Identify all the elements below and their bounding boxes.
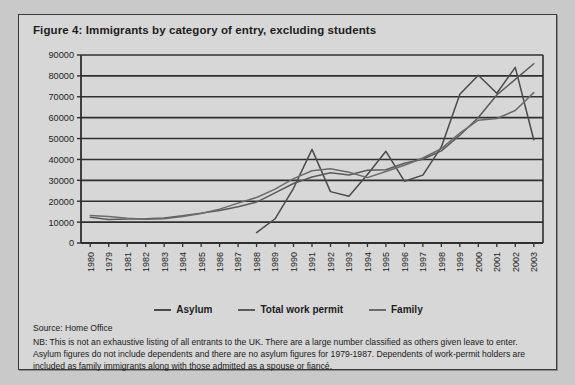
y-axis-tick-label: 90000: [48, 50, 74, 60]
x-axis-tick-label: 1982: [141, 252, 151, 272]
x-axis-tick-label: 1991: [307, 252, 317, 272]
x-axis-tick-label: 1981: [123, 252, 133, 272]
x-axis-tick-label: 1990: [289, 252, 299, 272]
x-axis-tick-label: 1983: [160, 252, 170, 272]
y-axis-tick-label: 60000: [48, 113, 74, 123]
legend-label-family: Family: [391, 304, 423, 315]
x-axis-tick-label: 2003: [529, 252, 539, 272]
x-axis-tick-label: 1998: [437, 252, 447, 272]
x-axis-tick-label: 2001: [492, 252, 502, 272]
x-axis-tick-label: 2002: [511, 252, 521, 272]
line-chart: 0100002000030000400005000060000700008000…: [19, 15, 558, 371]
x-axis-tick-label: 1987: [233, 252, 243, 272]
y-axis-tick-label: 0: [69, 238, 74, 248]
x-axis-tick-label: 1984: [178, 252, 188, 272]
x-axis-tick-label: 1994: [363, 252, 373, 272]
x-axis-tick-label: 1997: [418, 252, 428, 272]
legend-label-asylum: Asylum: [176, 304, 212, 315]
y-axis-tick-label: 50000: [48, 134, 74, 144]
legend-item-family: Family: [369, 304, 423, 315]
x-axis-tick-label: 1992: [326, 252, 336, 272]
x-axis-tick-label: 1989: [270, 252, 280, 272]
x-axis-tick-label: 1980: [86, 252, 96, 272]
legend-item-asylum: Asylum: [154, 304, 212, 315]
figure-panel: Figure 4: Immigrants by category of entr…: [18, 14, 557, 370]
y-axis-tick-label: 10000: [48, 218, 74, 228]
y-axis-tick-label: 40000: [48, 155, 74, 165]
y-axis-tick-label: 20000: [48, 197, 74, 207]
x-axis-tick-label: 1985: [197, 252, 207, 272]
x-axis-tick-label: 1996: [400, 252, 410, 272]
legend-item-total-work-permit: Total work permit: [238, 304, 343, 315]
x-axis-tick-label: 1995: [381, 252, 391, 272]
x-axis-tick-label: 1999: [455, 252, 465, 272]
source-line: Source: Home Office: [33, 323, 113, 333]
nb-footnote: NB: This is not an exhaustive listing of…: [33, 337, 545, 373]
y-axis-tick-label: 70000: [48, 92, 74, 102]
legend-label-total-work-permit: Total work permit: [260, 304, 343, 315]
x-axis-tick-label: 1993: [344, 252, 354, 272]
x-axis-tick-label: 1979: [104, 252, 114, 272]
y-axis-tick-label: 30000: [48, 176, 74, 186]
chart-plot-area: 0100002000030000400005000060000700008000…: [19, 15, 558, 371]
legend-swatch-family: [369, 309, 386, 311]
x-axis-tick-label: 1986: [215, 252, 225, 272]
x-axis-tick-label: 1988: [252, 252, 262, 272]
chart-legend: Asylum Total work permit Family: [19, 304, 558, 315]
y-axis-tick-label: 80000: [48, 71, 74, 81]
series-line: [257, 67, 534, 232]
legend-swatch-asylum: [154, 309, 171, 311]
legend-swatch-total-work-permit: [238, 309, 255, 311]
x-axis-tick-label: 2000: [474, 252, 484, 272]
series-line: [90, 93, 534, 220]
